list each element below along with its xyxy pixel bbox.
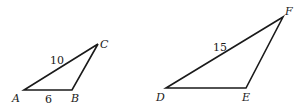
vertex-label-e: E (241, 91, 250, 104)
vertex-label-f: F (284, 5, 293, 18)
side-label-ab: 6 (45, 93, 52, 106)
vertex-label-c: C (100, 38, 109, 51)
vertex-label-a: A (11, 92, 20, 105)
triangle-def: D E F 15 (155, 5, 293, 104)
similar-triangles-diagram: A B C 10 6 D E F 15 (0, 0, 306, 112)
vertex-label-d: D (155, 91, 165, 104)
side-label-df: 15 (213, 41, 227, 54)
triangle-abc: A B C 10 6 (11, 38, 109, 106)
side-label-ac: 10 (50, 54, 64, 67)
vertex-label-b: B (70, 92, 79, 105)
triangle-abc-shape (24, 44, 98, 90)
